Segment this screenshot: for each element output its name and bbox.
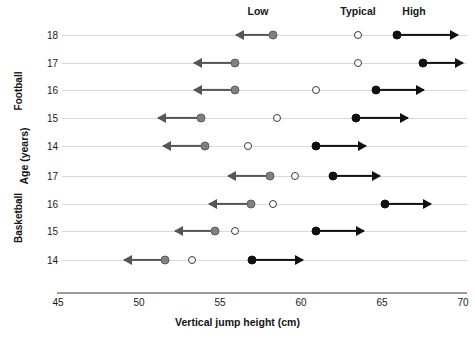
low-marker	[160, 255, 169, 264]
low-marker	[230, 86, 239, 95]
high-marker	[248, 255, 257, 264]
y-axis-tick-label: 14	[36, 141, 58, 152]
high-marker	[381, 199, 390, 208]
high-marker	[371, 86, 380, 95]
legend-label-low: Low	[248, 5, 269, 17]
group-label-football: Football	[13, 71, 24, 110]
high-marker	[418, 58, 427, 67]
high-marker	[311, 227, 320, 236]
low-marker	[211, 227, 220, 236]
typical-marker	[269, 200, 277, 208]
high-marker	[311, 142, 320, 151]
typical-marker	[231, 227, 239, 235]
high-marker	[392, 31, 401, 40]
high-marker	[352, 114, 361, 123]
x-axis-tick-label: 55	[214, 297, 225, 308]
typical-marker	[244, 142, 252, 150]
row-gridline	[62, 231, 467, 232]
low-marker	[196, 114, 205, 123]
row-gridline	[62, 63, 467, 64]
x-axis-tick-label: 50	[133, 297, 144, 308]
vertical-jump-height-chart: LowTypicalHigh1817161514Football17161514…	[0, 0, 475, 338]
typical-marker	[291, 172, 299, 180]
row-gridline	[62, 146, 467, 147]
y-axis-title: Age (years)	[18, 111, 30, 201]
y-axis-tick-label: 18	[36, 30, 58, 41]
y-axis-tick-label: 16	[36, 85, 58, 96]
x-axis-tick-label: 45	[52, 297, 63, 308]
y-axis-tick-label: 16	[36, 198, 58, 209]
low-marker	[201, 142, 210, 151]
x-axis-tick-label: 65	[376, 297, 387, 308]
typical-marker	[273, 114, 281, 122]
y-axis-tick-label: 15	[36, 226, 58, 237]
x-axis-tick-label: 60	[295, 297, 306, 308]
high-marker	[329, 172, 338, 181]
legend-label-typical: Typical	[340, 5, 375, 17]
plot-area: LowTypicalHigh1817161514Football17161514…	[0, 0, 475, 338]
low-marker	[266, 172, 275, 181]
y-axis-tick-label: 14	[36, 254, 58, 265]
x-axis-line	[57, 292, 467, 294]
low-marker	[230, 58, 239, 67]
x-axis-title: Vertical jump height (cm)	[0, 316, 475, 328]
low-marker	[269, 31, 278, 40]
legend-label-high: High	[402, 5, 425, 17]
x-axis-tick-label: 70	[457, 297, 468, 308]
typical-marker	[188, 256, 196, 264]
typical-marker	[354, 59, 362, 67]
y-axis-tick-label: 15	[36, 113, 58, 124]
y-axis-tick-label: 17	[36, 171, 58, 182]
y-axis-tick-label: 17	[36, 57, 58, 68]
low-marker	[246, 199, 255, 208]
typical-marker	[312, 86, 320, 94]
typical-marker	[354, 31, 362, 39]
